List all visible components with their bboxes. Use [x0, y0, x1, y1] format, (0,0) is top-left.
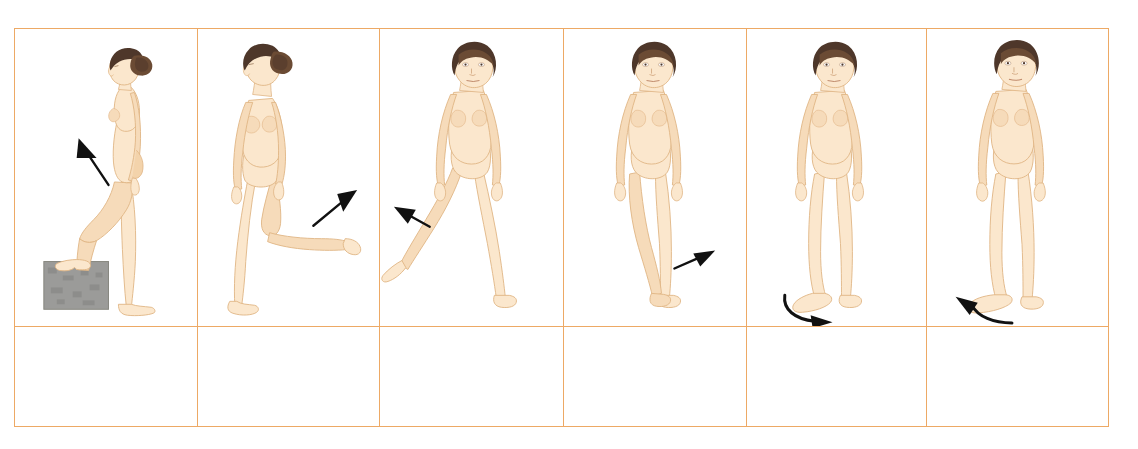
illustration-page — [0, 0, 1138, 449]
panel-cell-hip-medial-rotation[interactable] — [747, 29, 927, 326]
illustration-hip-lateral-rotation — [927, 29, 1108, 326]
panel-cell-hip-abduction[interactable] — [380, 29, 564, 326]
illustration-hip-medial-rotation — [747, 29, 926, 326]
female-figure-anterior-lateral-rotation — [968, 40, 1045, 313]
figure-row — [15, 29, 1108, 327]
panel-cell-hip-adduction[interactable] — [564, 29, 747, 326]
illustration-hip-extension — [198, 29, 379, 326]
female-figure-anterior-medial-rotation — [793, 42, 864, 313]
illustration-hip-adduction — [564, 29, 746, 326]
figure-grid-table — [14, 28, 1109, 427]
arrow-up-right-icon — [674, 251, 715, 269]
caption-cell-hip-lateral-rotation — [927, 327, 1108, 426]
caption-cell-hip-medial-rotation — [747, 327, 927, 426]
panel-cell-hip-lateral-rotation[interactable] — [927, 29, 1108, 326]
caption-cell-hip-flexion — [15, 327, 198, 426]
caption-cell-hip-extension — [198, 327, 380, 426]
female-figure-anterior-adduction — [615, 42, 683, 308]
female-figure-three-quarter — [228, 44, 361, 315]
panel-cell-hip-flexion[interactable] — [15, 29, 198, 326]
arrow-up-left-icon — [394, 207, 430, 227]
illustration-hip-flexion — [15, 29, 197, 326]
caption-cell-hip-adduction — [564, 327, 747, 426]
female-figure-anterior-abduction — [382, 42, 517, 308]
caption-row — [15, 327, 1108, 426]
arrow-up-right-icon — [313, 190, 357, 226]
panel-cell-hip-extension[interactable] — [198, 29, 380, 326]
illustration-hip-abduction — [380, 29, 563, 326]
arrow-up-left-icon — [77, 138, 109, 185]
caption-cell-hip-abduction — [380, 327, 564, 426]
